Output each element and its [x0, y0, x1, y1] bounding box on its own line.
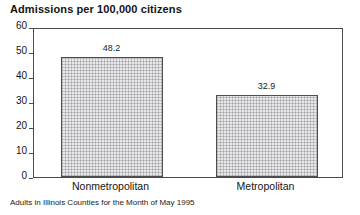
bar-value-label: 32.9: [258, 82, 276, 91]
chart-footnote: Adults in Illinois Counties for the Mont…: [10, 198, 195, 208]
y-axis-tick-label: 30: [16, 96, 27, 106]
x-axis-category-label: Metropolitan: [188, 180, 343, 192]
bar: 48.2: [61, 57, 163, 178]
y-axis-tick-label: 0: [21, 171, 27, 181]
y-axis-tick-label: 20: [16, 121, 27, 131]
plot-area: 48.232.9: [33, 28, 343, 178]
bar-value-label: 48.2: [103, 44, 121, 53]
y-axis-tick-label: 10: [16, 146, 27, 156]
y-axis-tick-label: 50: [16, 46, 27, 56]
y-axis: 0102030405060: [0, 28, 33, 178]
x-axis-category-label: Nonmetropolitan: [33, 180, 188, 192]
y-axis-tick-mark: [29, 178, 33, 179]
y-axis-tick-label: 40: [16, 71, 27, 81]
bar: 32.9: [216, 95, 318, 177]
chart-title: Admissions per 100,000 citizens: [10, 3, 182, 15]
y-axis-tick-label: 60: [16, 21, 27, 31]
